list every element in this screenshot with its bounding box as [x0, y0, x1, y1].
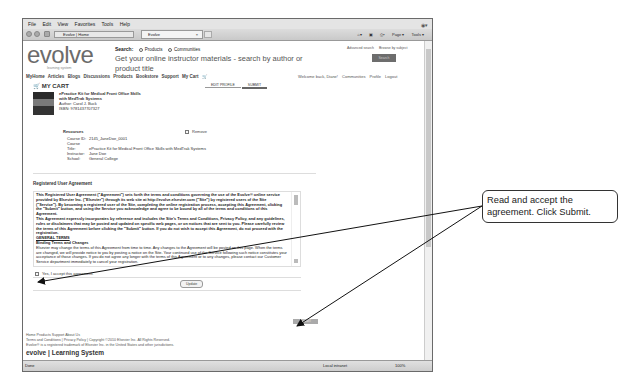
callout-arrows: [0, 0, 628, 386]
